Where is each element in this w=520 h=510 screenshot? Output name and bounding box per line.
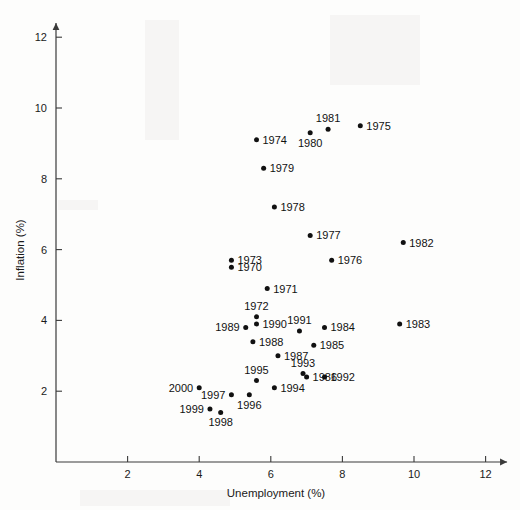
data-point-label: 1999 xyxy=(179,403,203,415)
data-point xyxy=(218,410,223,415)
data-point xyxy=(322,325,327,330)
data-point-label: 1984 xyxy=(331,321,355,333)
data-point xyxy=(304,375,309,380)
data-point xyxy=(229,392,234,397)
data-point-label: 1990 xyxy=(262,318,286,330)
data-point-label: 1971 xyxy=(273,283,297,295)
data-point-label: 1988 xyxy=(259,336,283,348)
data-point xyxy=(308,130,313,135)
data-point-label: 1991 xyxy=(287,314,311,326)
data-point xyxy=(254,321,259,326)
data-point xyxy=(308,233,313,238)
data-point xyxy=(265,286,270,291)
data-point-label: 1995 xyxy=(244,364,268,376)
data-points xyxy=(197,123,406,415)
x-tick-label: 6 xyxy=(268,468,274,480)
x-tick-label: 2 xyxy=(125,468,131,480)
tick-marks xyxy=(56,37,486,462)
y-tick-label: 8 xyxy=(41,173,47,185)
y-tick-label: 10 xyxy=(35,102,47,114)
data-point-label: 1974 xyxy=(262,134,286,146)
data-point xyxy=(297,329,302,334)
data-point xyxy=(207,406,212,411)
data-point-label: 1989 xyxy=(215,321,239,333)
data-point-label: 1979 xyxy=(270,162,294,174)
data-point xyxy=(301,371,306,376)
data-point-label: 1992 xyxy=(331,371,355,383)
data-point-label: 1981 xyxy=(316,112,340,124)
data-point-label: 1975 xyxy=(366,120,390,132)
data-point xyxy=(254,378,259,383)
point-labels: 1970197119721973197419751976197719781979… xyxy=(169,112,434,428)
data-point-label: 1998 xyxy=(208,416,232,428)
y-tick-label: 2 xyxy=(41,385,47,397)
y-tick-label: 6 xyxy=(41,244,47,256)
data-point xyxy=(243,325,248,330)
x-tick-label: 10 xyxy=(408,468,420,480)
y-axis-title: Inflation (%) xyxy=(14,219,26,281)
data-point-label: 1996 xyxy=(237,399,261,411)
data-point xyxy=(401,240,406,245)
data-point xyxy=(275,353,280,358)
data-point xyxy=(311,343,316,348)
plot-area: 2468101224681012 19701971197219731974197… xyxy=(0,0,520,510)
data-point xyxy=(254,137,259,142)
x-axis-arrow-icon xyxy=(500,459,507,466)
data-point xyxy=(229,265,234,270)
data-point xyxy=(329,258,334,263)
data-point xyxy=(247,392,252,397)
x-axis-title: Unemployment (%) xyxy=(227,487,326,499)
data-point-label: 1993 xyxy=(291,357,315,369)
axes xyxy=(53,23,507,465)
data-point-label: 1973 xyxy=(237,254,261,266)
data-point-label: 1983 xyxy=(406,318,430,330)
data-point xyxy=(397,321,402,326)
y-axis-arrow-icon xyxy=(53,23,60,30)
data-point-label: 1976 xyxy=(338,254,362,266)
data-point-label: 1972 xyxy=(244,300,268,312)
data-point-label: 1980 xyxy=(298,137,322,149)
data-point xyxy=(272,385,277,390)
x-tick-label: 8 xyxy=(339,468,345,480)
data-point xyxy=(229,258,234,263)
data-point xyxy=(250,339,255,344)
data-point-label: 1978 xyxy=(280,201,304,213)
tick-labels: 2468101224681012 xyxy=(35,31,492,480)
x-tick-label: 12 xyxy=(479,468,491,480)
data-point xyxy=(358,123,363,128)
data-point xyxy=(326,127,331,132)
data-point xyxy=(261,166,266,171)
data-point-label: 1982 xyxy=(409,237,433,249)
data-point-label: 1985 xyxy=(320,339,344,351)
data-point-label: 2000 xyxy=(169,382,193,394)
x-tick-label: 4 xyxy=(196,468,202,480)
y-tick-label: 12 xyxy=(35,31,47,43)
data-point-label: 1997 xyxy=(201,389,225,401)
data-point xyxy=(272,205,277,210)
data-point xyxy=(254,314,259,319)
data-point-label: 1994 xyxy=(280,382,304,394)
y-tick-label: 4 xyxy=(41,314,47,326)
data-point-label: 1977 xyxy=(316,229,340,241)
scatter-plot-figure: 2468101224681012 19701971197219731974197… xyxy=(0,0,520,510)
